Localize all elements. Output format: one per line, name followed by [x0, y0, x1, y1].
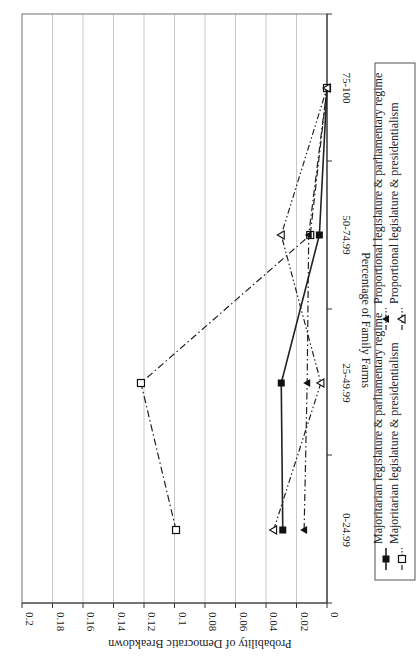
value-axis-title: Probability of Democratic Breakdown [108, 637, 292, 651]
open-square-marker [137, 380, 144, 387]
filled-square-marker [278, 380, 285, 387]
value-tick-label: 0 [329, 612, 341, 618]
legend-label: Proportional legislature & presidentiali… [387, 102, 401, 304]
filled-square-marker [383, 556, 390, 563]
series-line [141, 88, 327, 530]
series-lines [137, 84, 330, 534]
category-tick-label: 0-24.99 [341, 513, 353, 547]
legend-label: Proportional legislature & parliamentary… [371, 73, 385, 304]
category-tick-label: 25-49.99 [341, 363, 353, 403]
open-triangle-marker [270, 526, 277, 534]
filled-square-marker [279, 527, 286, 534]
value-tick-label: 0.08 [207, 612, 219, 632]
category-tick-label: 50-74.99 [341, 215, 353, 255]
value-tick-label: 0.12 [146, 612, 158, 631]
open-triangle-marker [277, 231, 284, 239]
legend-label: Majoritarian legislature & presidentiali… [387, 342, 401, 544]
legend-label: Majoritarian legislature & parliamentary… [371, 313, 385, 544]
value-tick-label: 0.2 [24, 612, 36, 626]
value-tick-label: 0.04 [268, 612, 280, 632]
category-tick-label: 75-100 [341, 72, 353, 104]
value-tick-label: 0.1 [177, 612, 189, 626]
value-tick-label: 0.14 [116, 612, 128, 632]
value-tick-label: 0.18 [55, 612, 67, 632]
filled-square-marker [316, 232, 323, 239]
open-square-marker [173, 527, 180, 534]
value-tick-label: 0.16 [85, 612, 97, 632]
line-chart: 00.020.040.060.080.10.120.140.160.180.2 … [0, 0, 420, 658]
series [300, 84, 330, 534]
legend: Majoritarian legislature & parliamentary… [371, 63, 415, 580]
series [137, 85, 330, 534]
value-tick-label: 0.06 [238, 612, 250, 632]
value-tick-label: 0.02 [299, 612, 311, 631]
open-square-marker [399, 556, 406, 563]
category-axis-ticks: 0-24.9925-49.9950-74.9975-100 [327, 14, 353, 603]
value-axis-ticks: 00.020.040.060.080.10.120.140.160.180.2 [22, 603, 341, 632]
series [278, 85, 331, 534]
series-line [281, 88, 327, 530]
gridlines [53, 14, 297, 603]
